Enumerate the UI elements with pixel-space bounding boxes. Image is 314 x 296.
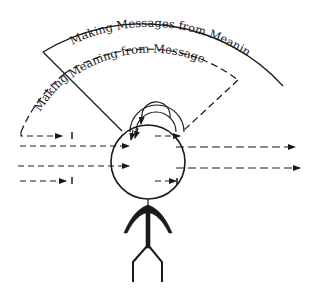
outgoing-arrows (176, 147, 300, 168)
incoming-arrows (18, 132, 180, 181)
self-loops (130, 102, 184, 140)
head-circle (111, 125, 185, 199)
inner-label-top: Meaning from Messages (0, 0, 207, 80)
stick-figure (124, 199, 172, 282)
inner-label-side: Making (31, 70, 71, 114)
stop-bars (72, 132, 177, 185)
communication-diagram: Making Messages from Meaning Meaning fro… (0, 0, 314, 296)
